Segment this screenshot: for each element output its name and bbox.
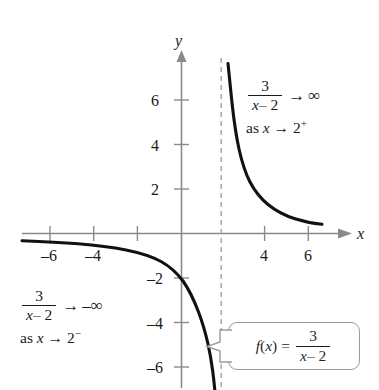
as-arrow-left: → [48,329,64,346]
callout-equation: f(x) = 3 x– 2 [256,328,333,364]
callout-pointer-tail [206,328,234,364]
fraction-left: 3 x– 2 [22,288,56,324]
fraction-callout: 3 x– 2 [296,328,330,364]
fraction-callout-numerator: 3 [296,328,330,346]
y-ticklabel--4: –4 [146,315,163,332]
x-ticklabel-4: 4 [260,247,268,264]
fraction-callout-denominator-var: x [300,347,307,364]
y-axis-arrowhead [177,50,187,62]
limit-arrow-left: → [62,296,79,316]
fraction-left-denominator-var: x [26,306,33,323]
as-var-right: x [263,119,270,136]
fraction-right: 3 x– 2 [248,78,282,114]
as-prefix-right: as [246,119,259,136]
callout-arg: x [265,337,272,355]
fraction-left-denominator: x– 2 [22,306,56,323]
callout-equals: = [281,337,290,355]
annotation-right-row2: as x → 2+ [246,117,320,137]
graph-figure: x y –6 –4 4 6 6 4 2 –2 –4 –6 3 x– 2 → ∞ … [0,0,379,390]
x-ticklabel--6: –6 [40,247,57,264]
y-ticklabel--6: –6 [146,359,163,376]
as-sign-right: + [301,117,307,129]
as-sign-left: − [75,327,81,339]
fraction-right-numerator: 3 [248,78,282,96]
fraction-left-denominator-rest: – 2 [33,306,52,323]
annotation-limit-left: 3 x– 2 → –∞ as x → 2− [20,288,103,347]
y-axis-label: y [173,32,183,50]
fraction-right-denominator-var: x [252,96,259,113]
y-ticklabel-2: 2 [151,181,159,198]
fraction-right-denominator: x– 2 [248,96,282,113]
as-var-left: x [37,329,44,346]
x-axis-arrowhead [338,229,352,239]
annotation-limit-right: 3 x– 2 → ∞ as x → 2+ [246,78,320,137]
as-prefix-left: as [20,329,33,346]
annotation-left-row2: as x → 2− [20,327,103,347]
annotation-left-row1: 3 x– 2 → –∞ [20,288,103,324]
fraction-left-numerator: 3 [22,288,56,306]
callout-close-paren: ) [272,337,277,355]
fraction-right-denominator-rest: – 2 [259,96,278,113]
as-arrow-right: → [274,119,290,136]
y-ticklabel--2: –2 [146,270,163,287]
fraction-callout-denominator-rest: – 2 [307,347,326,364]
x-axis-label: x [356,225,364,242]
y-ticklabel-4: 4 [151,137,159,154]
as-value-left: 2 [67,329,75,346]
function-callout-box: f(x) = 3 x– 2 [228,322,360,370]
x-ticklabel-6: 6 [304,247,312,264]
as-value-right: 2 [293,119,301,136]
fraction-callout-denominator: x– 2 [296,347,330,364]
limit-value-left: –∞ [82,296,103,316]
annotation-right-row1: 3 x– 2 → ∞ [246,78,320,114]
y-ticklabel-6: 6 [151,92,159,109]
limit-arrow-right: → [288,86,305,106]
limit-value-right: ∞ [308,86,320,106]
x-ticklabel--4: –4 [84,247,101,264]
